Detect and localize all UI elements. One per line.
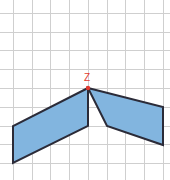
geometry-figure: Z — [0, 0, 170, 180]
vertex-label-z: Z — [84, 72, 90, 83]
vertex-point-z — [86, 86, 90, 90]
figure-canvas: Z — [0, 0, 170, 180]
